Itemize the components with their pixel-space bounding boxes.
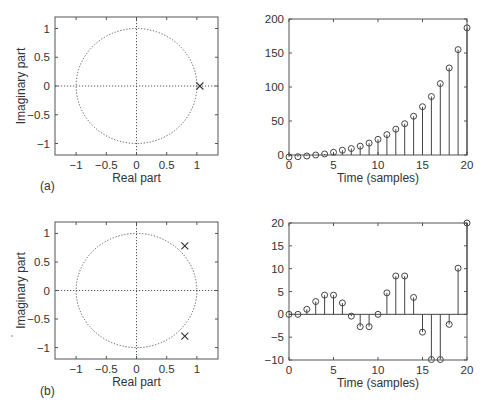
- panel-tag-b: (b): [40, 384, 55, 398]
- x-tick-label: 1: [194, 159, 200, 171]
- x-tick-label: 0: [286, 159, 292, 171]
- x-tick-label: 0.5: [159, 159, 175, 171]
- x-tick-label: 5: [330, 159, 336, 171]
- y-tick-label: 1: [44, 23, 50, 35]
- x-tick-label: −1: [70, 159, 83, 171]
- y-tick-label: −1: [37, 138, 50, 150]
- y-tick-label: 50: [271, 115, 284, 127]
- impulse-response-plot-b: 05101520−10−505101520Time (samples): [264, 217, 473, 390]
- x-tick-label: 20: [461, 159, 474, 171]
- y-tick-label: 0: [278, 308, 284, 320]
- x-tick-label: −0.5: [95, 363, 118, 375]
- y-tick-label: 0.5: [34, 256, 50, 268]
- y-tick-label: 0: [44, 80, 50, 92]
- y-tick-label: 0: [278, 149, 284, 161]
- x-tick-label: 10: [372, 159, 385, 171]
- x-tick-label: 15: [416, 364, 429, 376]
- x-tick-label: 5: [330, 364, 336, 376]
- pole-x-marker-icon: [181, 242, 188, 249]
- x-tick-label: 10: [372, 364, 385, 376]
- y-tick-label: −1: [37, 342, 50, 354]
- y-tick-label: 20: [271, 217, 284, 229]
- x-tick-label: 0: [286, 364, 292, 376]
- y-axis-label: Imaginary part: [14, 251, 28, 328]
- x-tick-label: 0: [133, 159, 139, 171]
- x-axis-label: Time (samples): [337, 171, 419, 185]
- y-tick-label: 100: [265, 81, 284, 93]
- pole-x-marker-icon: [181, 333, 188, 340]
- x-axis-label: Real part: [112, 171, 161, 185]
- y-tick-label: −5: [271, 331, 284, 343]
- x-tick-label: 20: [461, 364, 474, 376]
- panel-tag-a: (a): [40, 179, 55, 193]
- y-tick-label: 10: [271, 263, 284, 275]
- y-tick-label: 0: [44, 285, 50, 297]
- y-tick-label: 0.5: [34, 51, 50, 63]
- stray-dot: [11, 335, 13, 337]
- y-tick-label: 1: [44, 227, 50, 239]
- y-tick-label: 200: [265, 13, 284, 25]
- pole-zero-plot-a: −1−0.500.51−1−0.500.51Real partImaginary…: [14, 17, 218, 185]
- y-tick-label: 150: [265, 47, 284, 59]
- x-tick-label: 1: [194, 363, 200, 375]
- y-tick-label: −10: [264, 354, 284, 366]
- x-axis-label: Real part: [112, 375, 161, 389]
- y-tick-label: −0.5: [27, 109, 50, 121]
- impulse-response-plot-a: 05101520050100150200Time (samples): [265, 13, 474, 185]
- x-axis-label: Time (samples): [337, 376, 419, 390]
- x-tick-label: 0.5: [159, 363, 175, 375]
- y-tick-label: −0.5: [27, 313, 50, 325]
- figure-canvas: −1−0.500.51−1−0.500.51Real partImaginary…: [0, 0, 489, 403]
- x-tick-label: 0: [133, 363, 139, 375]
- y-axis-label: Imaginary part: [14, 47, 28, 124]
- x-tick-label: 15: [416, 159, 429, 171]
- y-tick-label: 15: [271, 240, 284, 252]
- y-tick-label: 5: [278, 286, 284, 298]
- x-tick-label: −0.5: [95, 159, 118, 171]
- pole-zero-plot-b: −1−0.500.51−1−0.500.51Real partImaginary…: [14, 222, 218, 389]
- x-tick-label: −1: [70, 363, 83, 375]
